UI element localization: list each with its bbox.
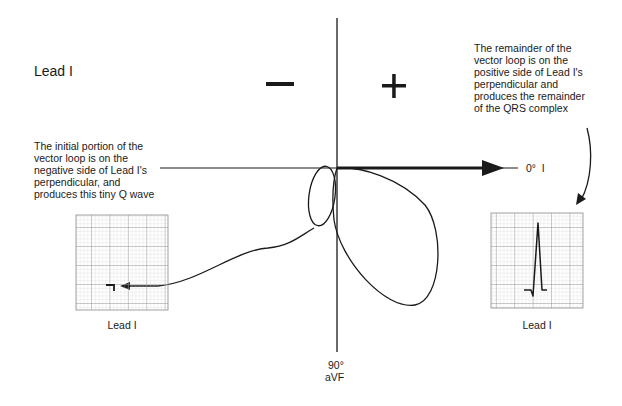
- diagram-title: Lead I: [34, 63, 73, 79]
- left-annotation-line: produces this tiny Q wave: [34, 188, 154, 200]
- left-annotation-line: vector loop is on the: [34, 152, 154, 164]
- left-annotation: The initial portion of the vector loop i…: [34, 140, 154, 200]
- left-annotation-line: perpendicular, and: [34, 176, 154, 188]
- ecg-strip-left-label: Lead I: [76, 319, 168, 331]
- main-vector-loop: [333, 168, 438, 306]
- right-annotation-line: The remainder of the: [474, 42, 585, 54]
- qrs-pointer-arrow: [581, 128, 591, 200]
- ecg-strip-left: [76, 215, 168, 310]
- left-annotation-line: The initial portion of the: [34, 140, 154, 152]
- right-annotation: The remainder of the vector loop is on t…: [474, 42, 585, 114]
- horizontal-axis-label: 0° I: [526, 162, 545, 174]
- right-annotation-line: produces the remainder: [474, 90, 585, 102]
- positive-sign-icon: [382, 74, 406, 98]
- right-annotation-line: perpendicular and: [474, 78, 585, 90]
- right-annotation-line: of the QRS complex: [474, 102, 585, 114]
- vertical-axis-lead-label: aVF: [325, 371, 344, 383]
- lead-i-arrowhead-icon: [482, 160, 504, 176]
- negative-sign-icon: [266, 82, 294, 86]
- ecg-strip-right-label: Lead I: [491, 319, 583, 331]
- vertical-axis-degree-label: 90°: [328, 359, 344, 371]
- ecg-strip-right: [491, 213, 583, 308]
- qrs-arrowhead-icon: [576, 193, 586, 205]
- left-annotation-line: negative side of Lead I's: [34, 164, 154, 176]
- right-annotation-line: vector loop is on the: [474, 54, 585, 66]
- right-annotation-line: positive side of Lead I's: [474, 66, 585, 78]
